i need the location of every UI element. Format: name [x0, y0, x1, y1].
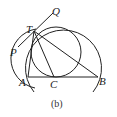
label-P: P [9, 46, 17, 58]
outer-arc [26, 30, 102, 92]
label-B: B [99, 75, 106, 87]
label-A: A [18, 76, 26, 88]
label-T: T [26, 23, 33, 35]
label-Q: Q [52, 5, 60, 17]
geometry-diagram: T Q P A C B (b) [0, 0, 117, 117]
label-C: C [50, 78, 58, 90]
segment-TA [28, 31, 34, 77]
caption: (b) [51, 98, 63, 110]
